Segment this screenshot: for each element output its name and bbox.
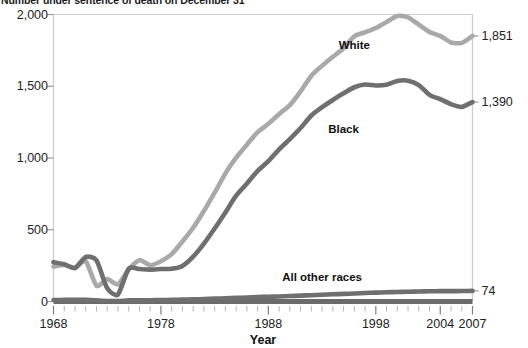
series-label-black: Black — [328, 123, 359, 135]
x-axis-tick-label: 2007 — [459, 317, 487, 331]
chart-container: Number under sentence of death on Decemb… — [0, 0, 528, 348]
end-value-label-black: 1,390 — [482, 96, 513, 108]
x-axis-tick-label: 1988 — [254, 317, 282, 331]
series-label-white: White — [339, 39, 370, 51]
series-label-all-other-races: All other races — [282, 271, 362, 283]
end-value-label-all-other-races: 74 — [482, 285, 496, 297]
x-axis-tick-label: 1998 — [362, 317, 390, 331]
end-value-label-white: 1,851 — [482, 30, 513, 42]
x-axis-tick-label: 1968 — [40, 317, 68, 331]
x-axis-tick-labels: 196819781988199820042007Year — [0, 0, 528, 348]
x-axis-tick-label: 1978 — [147, 317, 175, 331]
x-axis-title: Year — [250, 333, 276, 347]
x-axis-tick-label: 2004 — [426, 317, 454, 331]
